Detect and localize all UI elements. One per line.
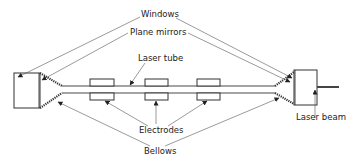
right-mirror-housing <box>294 70 317 105</box>
left-bellows <box>40 73 62 108</box>
label-windows: Windows <box>141 9 180 19</box>
label-laser-tube: Laser tube <box>138 53 183 63</box>
electrode-1 <box>90 79 114 100</box>
laser-diagram: Windows Plane mirrors Laser tube Electro… <box>0 0 349 165</box>
left-mirror-housing <box>14 73 40 108</box>
laser-tube-leader <box>130 63 145 85</box>
right-bellows <box>275 72 294 104</box>
electrode-3 <box>197 79 220 100</box>
label-electrodes: Electrodes <box>139 125 184 135</box>
label-plane-mirrors: Plane mirrors <box>130 27 187 37</box>
electrodes-leaders <box>105 101 207 126</box>
label-laser-beam: Laser beam <box>296 112 346 122</box>
laser-tube <box>62 86 275 93</box>
bellows-leaders <box>58 98 279 146</box>
label-bellows: Bellows <box>144 146 177 156</box>
electrode-2 <box>145 79 168 100</box>
